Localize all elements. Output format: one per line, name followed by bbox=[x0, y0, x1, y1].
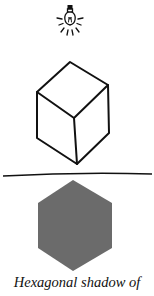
shadow-diagram: Hexagonal shadow of bbox=[0, 0, 154, 296]
light-bulb-icon bbox=[57, 5, 83, 35]
cube-drawing bbox=[37, 62, 109, 164]
hexagonal-shadow bbox=[38, 180, 112, 271]
ground-line bbox=[3, 173, 152, 176]
caption: Hexagonal shadow of bbox=[0, 274, 154, 291]
